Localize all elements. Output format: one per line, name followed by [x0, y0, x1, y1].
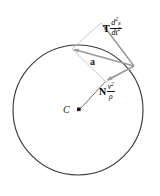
- normal-numerator: v2: [107, 83, 115, 91]
- normal-unit-vector-symbol: N: [99, 86, 106, 97]
- tangential-denominator: dt2: [110, 29, 121, 37]
- tangential-vector-label: T d2s dt2: [103, 19, 122, 38]
- center-label: C: [63, 105, 70, 115]
- vector-diagram-figure: C a T d2s dt2 N v2 ρ: [0, 0, 160, 196]
- tangential-magnitude-fraction: d2s dt2: [110, 19, 121, 38]
- acceleration-vector-arrow: [74, 50, 134, 67]
- normal-vector-arrow: [108, 66, 135, 80]
- acceleration-vector-label: a: [90, 57, 95, 67]
- normal-magnitude-fraction: v2 ρ: [107, 83, 115, 101]
- normal-vector-label: N v2 ρ: [99, 83, 115, 101]
- tangential-unit-vector-symbol: T: [103, 23, 110, 34]
- normal-denominator: ρ: [108, 93, 114, 101]
- center-point-dot: [77, 108, 81, 112]
- diagram-canvas: [0, 0, 160, 196]
